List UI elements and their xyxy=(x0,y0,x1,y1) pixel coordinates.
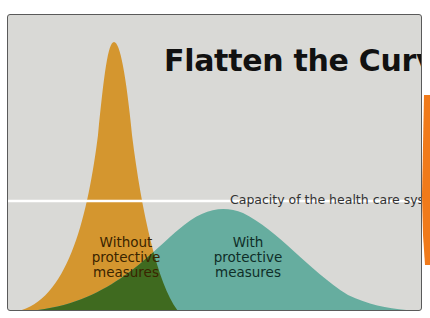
without-measures-label: Without protective measures xyxy=(86,235,166,280)
chart-panel: Flatten the Curve Capacity of the health… xyxy=(7,14,422,311)
label-line: protective xyxy=(208,250,288,265)
label-line: protective xyxy=(86,250,166,265)
with-measures-label: With protective measures xyxy=(208,235,288,280)
label-line: measures xyxy=(86,265,166,280)
label-line: measures xyxy=(208,265,288,280)
chart-title: Flatten the Curve xyxy=(164,43,422,78)
orange-edge-decoration xyxy=(422,95,430,265)
capacity-label: Capacity of the health care system xyxy=(230,192,422,207)
label-line: With xyxy=(208,235,288,250)
label-line: Without xyxy=(86,235,166,250)
